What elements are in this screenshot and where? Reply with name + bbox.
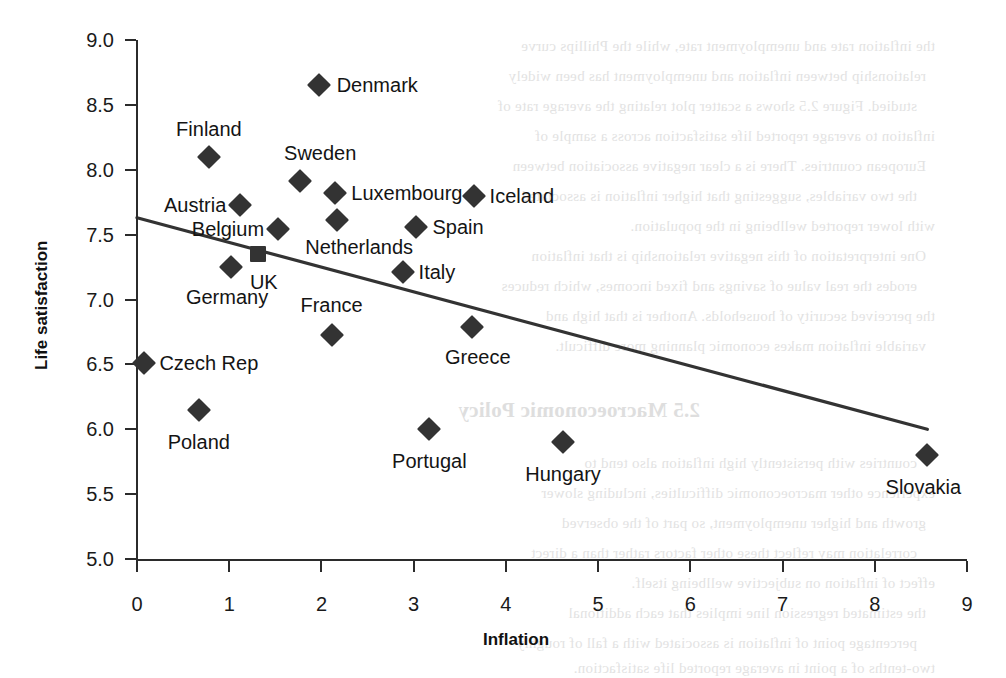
data-point-marker[interactable] xyxy=(551,430,575,454)
data-point-label: Italy xyxy=(419,261,456,284)
data-point-label: Finland xyxy=(176,117,242,140)
data-point-label: Netherlands xyxy=(305,236,413,259)
data-point-marker[interactable] xyxy=(266,217,290,241)
data-point-marker[interactable] xyxy=(462,184,486,208)
data-point-marker[interactable] xyxy=(228,193,252,217)
data-point-label: Spain xyxy=(432,215,483,238)
data-point-label: Greece xyxy=(445,345,511,368)
data-point-label: Denmark xyxy=(337,74,418,97)
data-point-label: Slovakia xyxy=(886,476,962,499)
data-point-marker[interactable] xyxy=(132,351,156,375)
data-point-label: Belgium xyxy=(192,218,264,241)
data-point-label: Hungary xyxy=(525,463,601,486)
data-point-label: Sweden xyxy=(284,142,356,165)
data-point-marker[interactable] xyxy=(219,255,243,279)
data-point-label: Austria xyxy=(164,193,226,216)
data-point-marker[interactable] xyxy=(288,169,312,193)
data-point-marker[interactable] xyxy=(391,260,415,284)
data-point-marker[interactable] xyxy=(460,315,484,339)
data-point-marker[interactable] xyxy=(320,323,344,347)
data-point-layer: DenmarkFinlandSwedenAustriaLuxembourgIce… xyxy=(0,0,1006,678)
data-point-label: Germany xyxy=(186,286,268,309)
data-point-marker[interactable] xyxy=(187,398,211,422)
data-point-label: Luxembourg xyxy=(351,182,462,205)
data-point-marker[interactable] xyxy=(323,181,347,205)
data-point-label: Czech Rep xyxy=(159,352,258,375)
data-point-marker[interactable] xyxy=(307,73,331,97)
data-point-marker[interactable] xyxy=(197,145,221,169)
data-point-marker[interactable] xyxy=(417,417,441,441)
data-point-label: Poland xyxy=(168,430,230,453)
data-point-marker[interactable] xyxy=(250,246,266,262)
data-point-marker[interactable] xyxy=(915,443,939,467)
data-point-label: Iceland xyxy=(490,184,555,207)
data-point-label: France xyxy=(300,293,362,316)
data-point-marker[interactable] xyxy=(325,208,349,232)
data-point-label: Portugal xyxy=(392,450,467,473)
scatter-chart: 2.5 Macroeconomic Policythe inflation ra… xyxy=(0,0,1006,678)
